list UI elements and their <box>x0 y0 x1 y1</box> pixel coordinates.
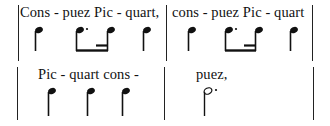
dotted-eighth-sixteenth-icon <box>224 26 264 51</box>
dotted-eighth-sixteenth-icon <box>75 26 116 51</box>
quarter-note-icon <box>86 87 96 116</box>
rhythm-notation <box>0 0 330 126</box>
quarter-note-icon <box>47 87 57 116</box>
quarter-note-icon <box>121 87 131 116</box>
quarter-note-icon <box>187 26 197 51</box>
dotted-half-note-icon <box>203 87 217 116</box>
quarter-note-icon <box>289 26 299 51</box>
quarter-note-icon <box>142 26 152 51</box>
quarter-note-icon <box>34 26 44 51</box>
